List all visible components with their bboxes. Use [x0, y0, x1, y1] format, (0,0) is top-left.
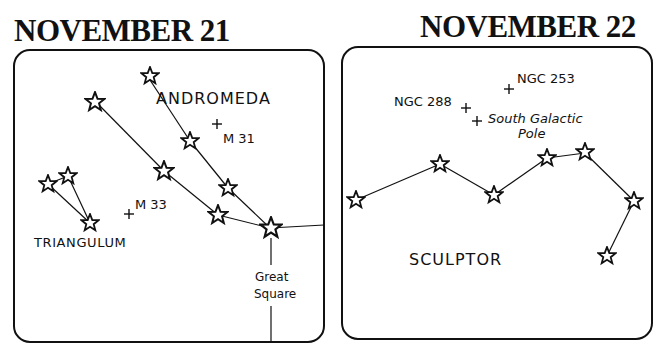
star-icon: [576, 143, 593, 159]
label-sculptor: SCULPTOR: [409, 250, 502, 269]
star-icon: [81, 214, 98, 230]
label-m31: M 31: [223, 131, 255, 146]
constellation-lines-right: [356, 153, 634, 256]
label-ngc288: NGC 288: [394, 94, 452, 109]
stars-sculptor: [347, 143, 642, 263]
star-icon: [59, 167, 76, 183]
stars-triangulum: [39, 167, 98, 230]
label-south-galactic: South Galactic: [488, 111, 583, 126]
label-great: Great: [255, 270, 289, 284]
constellation-lines-left: [48, 80, 324, 342]
label-andromeda: ANDROMEDA: [156, 89, 271, 108]
star-icon: [261, 217, 282, 237]
label-triangulum: TRIANGULUM: [33, 235, 126, 250]
star-icon: [209, 205, 228, 223]
label-square: Square: [254, 287, 296, 301]
star-icon: [485, 186, 502, 202]
label-ngc253: NGC 253: [517, 71, 575, 86]
label-pole: Pole: [518, 126, 545, 141]
label-m33: M 33: [135, 197, 167, 212]
star-icon: [141, 67, 158, 83]
star-icon: [181, 132, 198, 148]
star-icon: [431, 155, 448, 171]
star-icon: [347, 191, 364, 207]
star-icon: [598, 247, 615, 263]
